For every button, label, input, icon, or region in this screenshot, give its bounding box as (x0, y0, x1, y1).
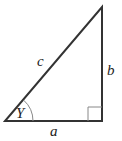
angle-label: Y (16, 105, 26, 121)
horizontal-leg-label: a (50, 123, 58, 139)
hypotenuse-label: c (37, 53, 44, 69)
right-triangle-diagram: c b a Y (0, 0, 122, 141)
angle-arc (24, 100, 33, 121)
triangle-outline (5, 7, 102, 121)
right-angle-marker (88, 107, 102, 121)
vertical-leg-label: b (107, 62, 115, 78)
